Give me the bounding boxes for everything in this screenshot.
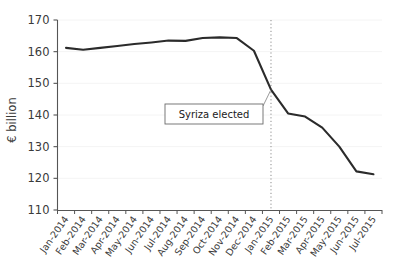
y-tick-label: 130 [28, 140, 50, 154]
y-tick-label: 140 [28, 108, 50, 122]
line-chart: 110120130140150160170 Jan-2014Feb-2014Ma… [0, 0, 395, 270]
y-tick-label: 120 [28, 171, 50, 185]
y-axis-title: € billion [5, 97, 19, 142]
y-tick-label: 150 [28, 76, 50, 90]
chart-container: 110120130140150160170 Jan-2014Feb-2014Ma… [0, 0, 395, 270]
y-tick-label: 160 [28, 45, 50, 59]
annotation-text: Syriza elected [179, 109, 250, 120]
y-tick-label: 170 [28, 13, 50, 27]
y-tick-label: 110 [28, 203, 50, 217]
